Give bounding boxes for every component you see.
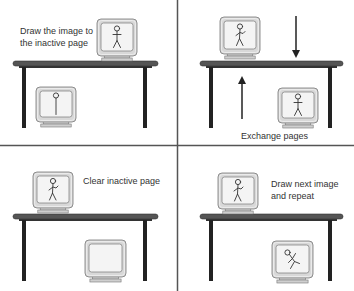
table-apron	[19, 219, 152, 221]
panel-4-caption-line-2: and repeat	[271, 191, 315, 201]
table-top	[200, 214, 343, 219]
table-leg-left	[209, 220, 213, 281]
panel-clear-inactive: Clear inactive page	[13, 172, 160, 282]
panel-2-caption: Exchange pages	[241, 131, 309, 141]
active-page-monitor	[220, 17, 260, 59]
inactive-page-monitor	[278, 88, 318, 128]
panel-3-caption: Clear inactive page	[83, 176, 160, 186]
monitor-base	[102, 58, 132, 61]
table	[13, 61, 158, 128]
table-top	[13, 214, 158, 219]
monitor-base	[225, 56, 255, 59]
monitor-base	[283, 125, 313, 128]
figure-body	[238, 185, 239, 194]
table-top	[13, 61, 158, 66]
panel-1-caption-line-1: Draw the image to	[20, 26, 93, 36]
monitor-base	[277, 280, 308, 283]
table-apron	[19, 66, 152, 68]
page-flipping-diagram: Draw the image to the inactive page Exch…	[0, 0, 354, 291]
figure-body	[240, 29, 241, 38]
panel-draw-inactive: Draw the image to the inactive page	[13, 19, 158, 128]
monitor-screen	[89, 244, 122, 272]
table-top	[200, 61, 343, 66]
inactive-page-monitor	[36, 87, 76, 127]
active-page-monitor	[218, 173, 258, 214]
active-page-monitor	[33, 172, 73, 213]
table	[200, 61, 343, 128]
table	[200, 214, 343, 281]
monitor-base	[41, 124, 71, 127]
monitor-base	[223, 211, 253, 214]
inactive-page-monitor	[85, 240, 126, 282]
table-leg-left	[22, 67, 26, 128]
panel-4-caption-line-1: Draw next image	[271, 179, 339, 189]
panel-1-caption-line-2: the inactive page	[20, 38, 88, 48]
table-apron	[206, 219, 337, 221]
panel-exchange: Exchange pages	[200, 16, 343, 141]
table-apron	[206, 66, 337, 68]
active-page-monitor	[97, 19, 137, 61]
figure-body	[53, 184, 54, 193]
panel-draw-next: Draw next image and repeat	[200, 173, 343, 283]
table-leg-right	[143, 220, 147, 281]
inactive-page-monitor	[272, 241, 313, 283]
table-leg-right	[328, 67, 332, 128]
monitor-base	[90, 279, 121, 282]
table-leg-right	[143, 67, 147, 128]
table-leg-right	[328, 220, 332, 281]
monitor-base	[38, 210, 68, 213]
table-leg-left	[22, 220, 26, 281]
table-leg-left	[209, 67, 213, 128]
